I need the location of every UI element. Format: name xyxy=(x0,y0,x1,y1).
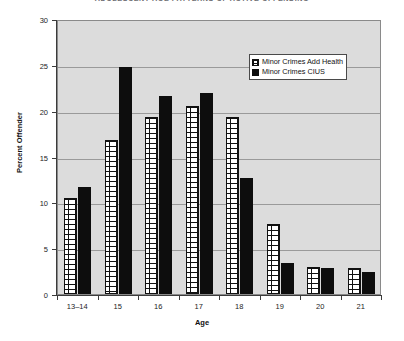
y-axis-tick xyxy=(52,249,56,250)
legend-item: Minor Crimes Add Health xyxy=(252,57,343,67)
x-axis-tick-label: 19 xyxy=(276,302,284,311)
bar-21-series1 xyxy=(362,272,375,294)
x-axis-tick-label: 15 xyxy=(114,302,122,311)
x-axis-tick-label: 13–14 xyxy=(67,302,88,311)
chart-figure: ADOLESCENT AGE PATTERNS OF ACTIVE OFFEND… xyxy=(0,0,404,341)
bar-18-series0 xyxy=(226,117,239,294)
bar-15-series0 xyxy=(105,140,118,294)
chart-title: ADOLESCENT AGE PATTERNS OF ACTIVE OFFEND… xyxy=(0,0,404,1)
legend-label: Minor Crimes Add Health xyxy=(262,57,343,67)
legend-label: Minor Crimes CIUS xyxy=(262,67,325,77)
x-axis-tick xyxy=(260,296,261,300)
bar-17-series1 xyxy=(200,93,213,294)
bar-19-series1 xyxy=(281,263,294,294)
y-axis-tick xyxy=(52,20,56,21)
y-axis-tick-label: 30 xyxy=(18,16,48,25)
y-axis-tick-label: 25 xyxy=(18,62,48,71)
y-axis-tick xyxy=(52,66,56,67)
y-axis-tick xyxy=(52,112,56,113)
bar-13-14-series0 xyxy=(64,198,77,294)
x-axis-tick xyxy=(57,296,58,300)
bar-17-series0 xyxy=(186,106,199,294)
bar-15-series1 xyxy=(119,67,132,294)
y-axis-title: Percent Offender xyxy=(15,88,24,198)
gridline xyxy=(58,113,380,114)
legend-swatch-icon xyxy=(252,59,259,66)
x-axis-tick xyxy=(300,296,301,300)
x-axis-tick-label: 21 xyxy=(357,302,365,311)
bar-20-series1 xyxy=(321,268,334,294)
y-axis-tick xyxy=(52,158,56,159)
bar-18-series1 xyxy=(240,178,253,294)
y-axis-tick-label: 5 xyxy=(18,245,48,254)
y-axis-tick-label: 0 xyxy=(18,291,48,300)
bar-16-series1 xyxy=(159,96,172,294)
x-axis-tick-label: 18 xyxy=(235,302,243,311)
x-axis-tick-label: 20 xyxy=(316,302,324,311)
x-axis-tick xyxy=(219,296,220,300)
bar-19-series0 xyxy=(267,224,280,294)
bar-20-series0 xyxy=(307,267,320,294)
x-axis-tick xyxy=(98,296,99,300)
x-axis-tick xyxy=(138,296,139,300)
y-axis-line xyxy=(56,20,57,296)
bar-16-series0 xyxy=(145,117,158,294)
legend-item: Minor Crimes CIUS xyxy=(252,67,343,77)
chart-legend: Minor Crimes Add HealthMinor Crimes CIUS xyxy=(249,54,347,80)
bar-21-series0 xyxy=(348,268,361,294)
x-axis-tick xyxy=(381,296,382,300)
x-axis-tick xyxy=(341,296,342,300)
x-axis-tick xyxy=(179,296,180,300)
y-axis-tick-label: 10 xyxy=(18,199,48,208)
x-axis-tick-label: 17 xyxy=(195,302,203,311)
legend-swatch-icon xyxy=(252,69,259,76)
y-axis-tick xyxy=(52,203,56,204)
x-axis-title: Age xyxy=(0,318,404,327)
x-axis-tick-label: 16 xyxy=(154,302,162,311)
bar-13-14-series1 xyxy=(78,187,91,294)
